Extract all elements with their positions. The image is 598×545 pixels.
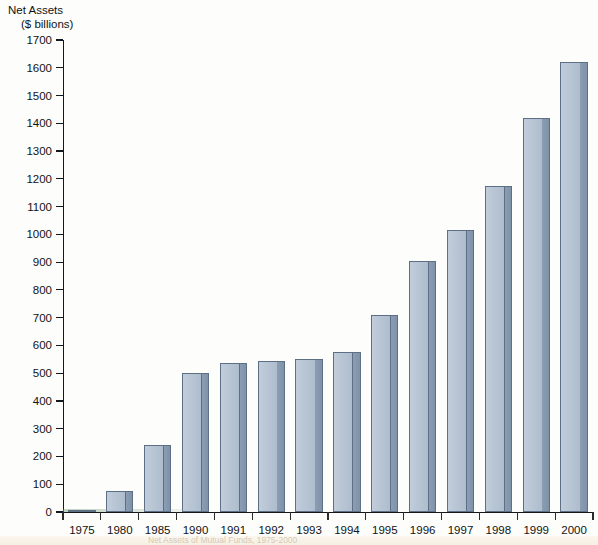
bar-side-face <box>315 359 322 512</box>
bar <box>106 491 133 512</box>
bar <box>258 361 285 512</box>
y-axis-label: 1400 <box>0 117 52 129</box>
caption-text: Net Assets of Mutual Funds, 1975-2000 <box>148 536 297 545</box>
bar-front-face <box>447 230 467 512</box>
bar-side-face <box>164 445 171 512</box>
plot-area: 1700160015001400130012001100100090080070… <box>63 40 593 512</box>
x-axis-tick <box>479 512 480 520</box>
bar-front-face <box>523 118 543 512</box>
axis-title-line-1: Net Assets <box>8 4 73 18</box>
y-axis-tick <box>56 206 63 207</box>
x-axis-label: 1980 <box>107 524 133 536</box>
y-axis-tick <box>56 95 63 96</box>
y-axis-tick <box>56 123 63 124</box>
y-axis-tick <box>56 67 63 68</box>
x-axis-label: 1999 <box>523 524 549 536</box>
bar-front-face <box>560 62 580 512</box>
bar-front-face <box>106 491 126 512</box>
x-axis-tick <box>403 512 404 520</box>
bar <box>182 373 209 512</box>
y-axis-label: 1300 <box>0 145 52 157</box>
bar-side-face <box>580 62 587 512</box>
y-axis-label: 400 <box>0 395 52 407</box>
x-axis-label: 2000 <box>561 524 587 536</box>
x-axis-label: 1990 <box>183 524 209 536</box>
bar-front-face <box>333 352 353 512</box>
x-axis-label: 1995 <box>372 524 398 536</box>
y-axis-tick <box>56 484 63 485</box>
y-axis-tick <box>56 345 63 346</box>
y-axis-label: 900 <box>0 256 52 268</box>
bar-front-face <box>68 510 88 512</box>
y-axis-label: 1600 <box>0 62 52 74</box>
x-axis-label: 1985 <box>145 524 171 536</box>
y-axis-label: 1100 <box>0 201 52 213</box>
bar-side-face <box>467 230 474 512</box>
bar <box>409 261 436 512</box>
bar <box>220 363 247 512</box>
bar-side-face <box>505 186 512 512</box>
bar-side-face <box>391 315 398 512</box>
x-axis-label: 1991 <box>221 524 247 536</box>
bar-side-face <box>277 361 284 512</box>
bar <box>295 359 322 512</box>
y-axis-tick <box>56 289 63 290</box>
x-axis-tick <box>138 512 139 520</box>
x-axis-label: 1997 <box>448 524 474 536</box>
y-axis-tick <box>56 234 63 235</box>
y-axis-label: 0 <box>0 506 52 518</box>
y-axis-tick <box>56 373 63 374</box>
x-axis-tick <box>555 512 556 520</box>
y-axis-tick <box>56 456 63 457</box>
x-axis-tick <box>365 512 366 520</box>
x-axis-tick <box>176 512 177 520</box>
y-axis-tick <box>56 178 63 179</box>
bar-front-face <box>182 373 202 512</box>
y-axis-label: 500 <box>0 367 52 379</box>
y-axis-tick <box>56 262 63 263</box>
y-axis-tick <box>56 400 63 401</box>
bar-front-face <box>144 445 164 512</box>
x-axis-label: 1992 <box>258 524 284 536</box>
value-axis-line <box>63 40 64 512</box>
y-axis-tick <box>56 428 63 429</box>
bar-side-face <box>240 363 247 512</box>
x-axis-tick <box>517 512 518 520</box>
x-axis-label: 1998 <box>486 524 512 536</box>
bar-front-face <box>371 315 391 512</box>
y-axis-label: 1500 <box>0 90 52 102</box>
chart-axis-title: Net Assets ($ billions) <box>8 4 73 31</box>
bar-side-face <box>88 510 95 512</box>
bar <box>144 445 171 512</box>
bar <box>68 510 95 512</box>
bar-front-face <box>295 359 315 512</box>
x-axis-tick <box>592 512 593 520</box>
y-axis-label: 1700 <box>0 34 52 46</box>
bar-side-face <box>126 491 133 512</box>
x-axis-tick <box>252 512 253 520</box>
x-axis-label: 1994 <box>334 524 360 536</box>
axis-title-line-2: ($ billions) <box>8 18 73 32</box>
y-axis-label: 1200 <box>0 173 52 185</box>
bar-side-face <box>202 373 209 512</box>
bar <box>485 186 512 512</box>
y-axis-label: 1000 <box>0 228 52 240</box>
bar-side-face <box>353 352 360 512</box>
y-axis-label: 200 <box>0 450 52 462</box>
x-axis-label: 1975 <box>69 524 95 536</box>
bar-chart: Net Assets ($ billions) 1700160015001400… <box>0 0 598 545</box>
bar-side-face <box>542 118 549 512</box>
bar-front-face <box>220 363 240 512</box>
y-axis-tick <box>56 317 63 318</box>
y-axis-label: 600 <box>0 339 52 351</box>
x-axis-tick <box>327 512 328 520</box>
y-axis-tick <box>56 39 63 40</box>
x-axis-tick <box>214 512 215 520</box>
x-axis-tick <box>290 512 291 520</box>
bar <box>333 352 360 512</box>
x-axis-label: 1996 <box>410 524 436 536</box>
x-axis-tick <box>62 512 63 520</box>
x-axis-label: 1993 <box>296 524 322 536</box>
y-axis-label: 700 <box>0 312 52 324</box>
bar-front-face <box>485 186 505 512</box>
